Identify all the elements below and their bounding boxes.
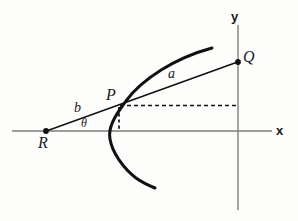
segment-label-b: b	[74, 101, 81, 115]
x-axis-label: x	[276, 124, 283, 137]
geometry-figure: y x Q P R a b θ	[0, 0, 298, 221]
point-label-p: P	[106, 87, 116, 103]
segment-label-a: a	[168, 67, 175, 81]
angle-label-theta: θ	[81, 117, 87, 129]
segment-rq-line	[45, 62, 239, 132]
y-axis-label: y	[231, 10, 238, 23]
point-label-q: Q	[243, 49, 255, 65]
point-label-r: R	[38, 135, 48, 151]
point-dot-q	[235, 59, 241, 65]
parabola-curve	[110, 48, 212, 188]
diagram-canvas	[0, 0, 298, 221]
